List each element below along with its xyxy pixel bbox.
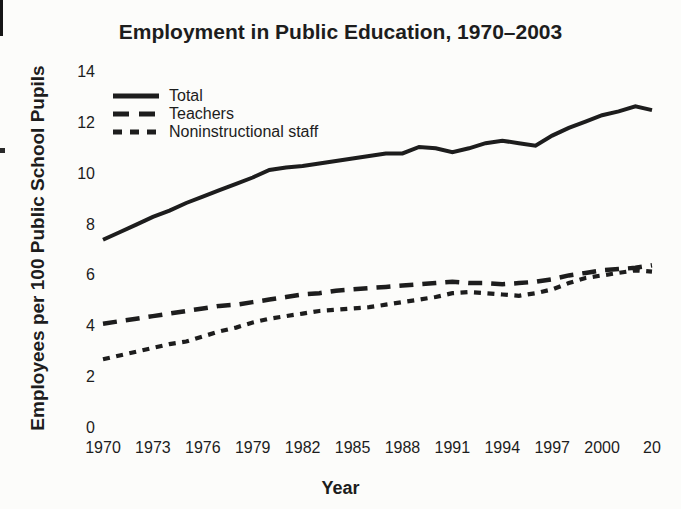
legend-item-teachers: Teachers	[112, 105, 318, 123]
chart-page: Employment in Public Education, 1970–200…	[0, 0, 681, 509]
y-tick-label: 4	[40, 316, 95, 336]
teachers-dashed-line-icon	[112, 110, 160, 118]
legend-item-noninstructional: Noninstructional staff	[112, 123, 318, 141]
x-axis-label: Year	[0, 478, 681, 499]
y-tick-label: 8	[40, 215, 95, 235]
y-tick-label: 10	[40, 164, 95, 184]
series-line-teachers	[103, 265, 652, 323]
legend-item-total: Total	[112, 87, 318, 105]
y-tick-label: 0	[40, 418, 95, 438]
legend-label-total: Total	[169, 87, 203, 105]
total-solid-line-icon	[112, 92, 160, 100]
y-tick-label: 12	[40, 113, 95, 133]
legend-label-teachers: Teachers	[169, 105, 234, 123]
noninstructional-dotted-line-icon	[112, 128, 160, 136]
y-tick-label: 6	[40, 265, 95, 285]
legend: Total Teachers Noninstructional staff	[112, 87, 318, 141]
x-tick-label: 20	[622, 438, 681, 458]
y-tick-label: 14	[40, 62, 95, 82]
legend-label-noninstructional: Noninstructional staff	[169, 123, 318, 141]
series-line-noninstructional-staff	[103, 270, 652, 359]
plot-area	[0, 0, 681, 509]
y-tick-label: 2	[40, 367, 95, 387]
